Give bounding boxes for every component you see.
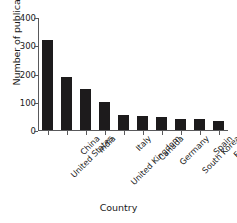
bar-series [38, 18, 228, 130]
x-tick-label: India [96, 134, 117, 155]
y-tick-label: 300 [14, 42, 36, 51]
y-tick-mark [34, 131, 38, 132]
x-tick-label: Italy [134, 134, 153, 153]
x-axis-tick-labels: United StatesChinaIndiaUnited KingdomIta… [38, 134, 228, 196]
y-tick-label: 400 [14, 14, 36, 23]
y-tick-mark [34, 103, 38, 104]
bar [156, 117, 168, 130]
bar [118, 115, 130, 130]
bar [175, 119, 187, 130]
bar [137, 116, 149, 130]
bar [194, 119, 206, 130]
bar-chart-figure: Number of publication 0100200300400 Unit… [0, 0, 237, 223]
y-tick-mark [34, 18, 38, 19]
bar [80, 89, 92, 129]
y-tick-mark [34, 75, 38, 76]
x-axis-title: Country [0, 202, 237, 213]
bar [42, 40, 54, 130]
bar [213, 121, 225, 129]
bar [61, 77, 73, 129]
y-tick-label: 200 [14, 70, 36, 79]
plot-area [38, 18, 228, 131]
y-tick-mark [34, 46, 38, 47]
bar [99, 102, 111, 130]
y-tick-label: 0 [14, 127, 36, 136]
y-axis-tick-labels: 0100200300400 [14, 12, 36, 137]
y-tick-label: 100 [14, 99, 36, 108]
